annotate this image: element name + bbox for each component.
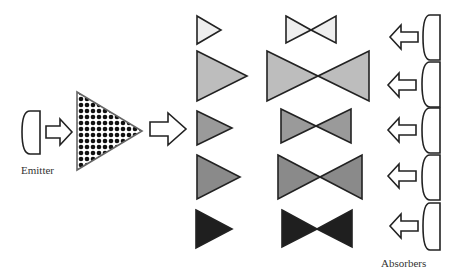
emitter-label: Emitter	[21, 164, 54, 176]
absorber-2	[422, 62, 440, 107]
absorbers-label: Absorbers	[381, 257, 426, 269]
arrow-left-icon	[388, 118, 416, 142]
bowtie-row-4	[278, 155, 362, 199]
diagram-canvas	[0, 0, 458, 278]
bowtie-row-5	[282, 210, 352, 247]
arrow-right-icon	[150, 113, 186, 145]
triangle-row-1	[197, 16, 221, 44]
absorber-4	[422, 155, 440, 200]
arrow-right-icon	[46, 119, 72, 145]
triangle-row-5	[196, 210, 232, 248]
arrow-left-icon	[390, 25, 418, 49]
bowtie-row-1	[286, 16, 336, 43]
checkered-prism	[77, 92, 142, 170]
arrow-left-icon	[390, 214, 418, 238]
triangle-row-4	[197, 155, 240, 199]
emitter-lens	[22, 111, 40, 154]
absorber-5	[423, 203, 440, 250]
triangle-row-2	[197, 51, 247, 101]
triangle-row-3	[197, 111, 232, 145]
absorber-arrows	[388, 25, 418, 238]
absorber-1	[423, 15, 440, 60]
absorber-3	[422, 108, 440, 153]
bowtie-row-3	[281, 109, 351, 143]
absorbers	[422, 15, 440, 250]
bowtie-row-2	[267, 51, 369, 101]
arrow-left-icon	[388, 73, 416, 97]
arrow-left-icon	[388, 164, 416, 188]
